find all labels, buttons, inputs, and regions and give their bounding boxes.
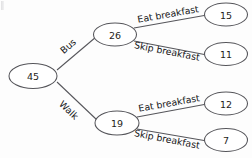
root-node-label: 45: [27, 71, 39, 82]
root-node: 45: [9, 64, 57, 89]
tree-diagram-svg: Bus Walk Eat breakfast Skip breakfast Ea…: [0, 0, 252, 158]
edge-label-bus-skip-group: Skip breakfast: [133, 39, 201, 63]
walk-node: 19: [95, 111, 139, 135]
walk-eat-node-label: 12: [220, 99, 232, 110]
bus-node: 26: [94, 23, 137, 46]
edge-label-bus-group: Bus: [58, 36, 78, 56]
bus-eat-node-label: 15: [220, 10, 232, 21]
walk-eat-node: 12: [205, 92, 248, 115]
edge-label-bus-skip: Skip breakfast: [133, 39, 201, 63]
edge-label-walk-skip: Skip breakfast: [133, 127, 201, 151]
walk-node-label: 19: [111, 118, 123, 129]
bus-skip-node: 11: [205, 43, 248, 66]
bus-node-label: 26: [109, 30, 121, 41]
walk-skip-node: 7: [205, 129, 248, 152]
bus-eat-node: 15: [205, 3, 248, 26]
bus-skip-node-label: 11: [220, 49, 232, 60]
edge-label-bus: Bus: [58, 36, 78, 56]
edge-label-walk-skip-group: Skip breakfast: [133, 127, 201, 151]
tree-diagram-canvas: Bus Walk Eat breakfast Skip breakfast Ea…: [0, 0, 252, 158]
walk-skip-node-label: 7: [223, 135, 229, 146]
